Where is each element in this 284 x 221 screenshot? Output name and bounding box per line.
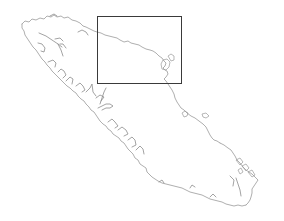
inlet-west-2 [58, 69, 66, 78]
inlet-west-3 [66, 77, 73, 84]
south-coastline [150, 175, 246, 206]
inlet-west-4 [76, 83, 85, 92]
map-canvas: Vancouver Island coastline outline [0, 0, 284, 221]
island-gulf-1 [236, 158, 243, 165]
island-gulf-4 [238, 168, 243, 174]
island-lasqueti [202, 113, 209, 118]
north-coastline [22, 15, 220, 143]
saanich-inlet [236, 178, 241, 196]
island-denman [182, 111, 188, 117]
inlet-west-7 [108, 119, 118, 128]
west-coastline [22, 24, 150, 175]
southwest-inlet [190, 185, 195, 188]
inlet-north-5 [38, 43, 45, 52]
island-map [0, 0, 284, 221]
island-gulf-2 [242, 164, 249, 171]
inlet-west-alberni [100, 88, 106, 104]
inlet-north-2 [55, 38, 63, 41]
inlet-west-10 [136, 146, 144, 154]
inlet-west-1 [48, 60, 56, 67]
east-coastline [220, 143, 258, 205]
inlet-north-7 [78, 30, 88, 35]
study-area-inset-box [98, 17, 182, 84]
sooke-inlet [210, 194, 216, 197]
inlet-west-8 [118, 127, 128, 136]
cowichan-bay [230, 176, 234, 186]
island-cortes [168, 54, 174, 61]
inlet-west-9 [128, 137, 136, 147]
inlet-west-5 [86, 84, 96, 96]
inlet-west-barkley [98, 104, 113, 110]
